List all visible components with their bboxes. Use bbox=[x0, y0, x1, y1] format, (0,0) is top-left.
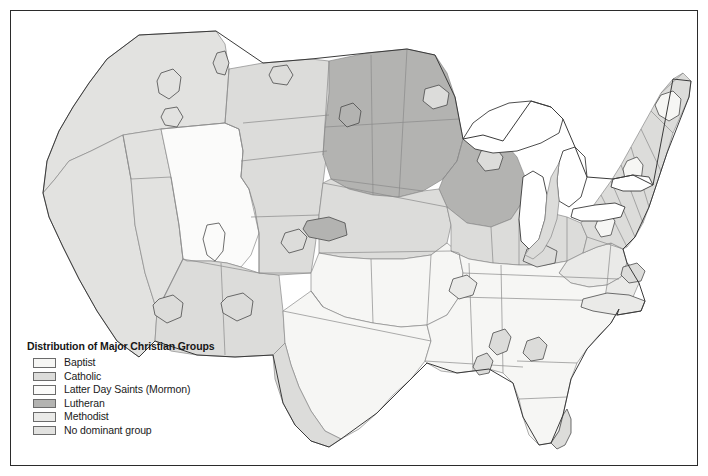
legend-label-baptist: Baptist bbox=[64, 356, 95, 370]
legend-item-methodist: Methodist bbox=[27, 410, 267, 424]
legend-label-latter-day-saints: Latter Day Saints (Mormon) bbox=[64, 383, 190, 397]
legend-item-lutheran: Lutheran bbox=[27, 397, 267, 411]
legend-label-lutheran: Lutheran bbox=[64, 397, 105, 411]
legend-item-no-dominant-group: No dominant group bbox=[27, 424, 267, 438]
map-figure: .g-baptist { fill: #f6f6f4; } .g-catholi… bbox=[0, 0, 708, 476]
legend-label-catholic: Catholic bbox=[64, 370, 101, 384]
legend-label-no-dominant-group: No dominant group bbox=[64, 424, 152, 438]
legend-item-baptist: Baptist bbox=[27, 356, 267, 370]
map-legend: Distribution of Major Christian Groups B… bbox=[27, 340, 267, 437]
legend-swatch-catholic bbox=[33, 372, 56, 382]
legend-label-methodist: Methodist bbox=[64, 410, 109, 424]
legend-item-latter-day-saints: Latter Day Saints (Mormon) bbox=[27, 383, 267, 397]
legend-swatch-lutheran bbox=[33, 399, 56, 409]
legend-swatch-no-dominant-group bbox=[33, 426, 56, 436]
legend-swatch-methodist bbox=[33, 412, 56, 422]
legend-item-catholic: Catholic bbox=[27, 370, 267, 384]
lake-huron bbox=[557, 147, 587, 207]
legend-title: Distribution of Major Christian Groups bbox=[27, 340, 267, 352]
legend-swatch-baptist bbox=[33, 358, 56, 368]
legend-swatch-latter-day-saints bbox=[33, 385, 56, 395]
